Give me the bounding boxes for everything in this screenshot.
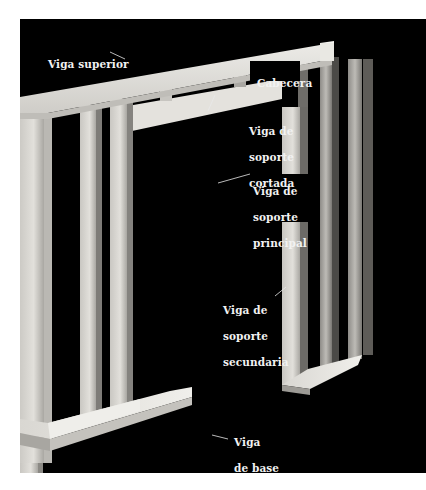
label-jack-stud: Viga de soporte secundaria <box>223 291 289 382</box>
label-king-stud: Viga de soporte principal <box>253 172 307 263</box>
label-header: Cabecera <box>257 64 312 103</box>
label-sole-plate: Viga de base inferior <box>234 423 280 473</box>
wall-frame-illustration <box>20 19 426 473</box>
end-stud <box>20 115 44 463</box>
label-top-plate: Viga superior <box>48 45 129 84</box>
wall-frame-photo: Viga superior Cabecera Viga de soporte c… <box>20 19 426 473</box>
